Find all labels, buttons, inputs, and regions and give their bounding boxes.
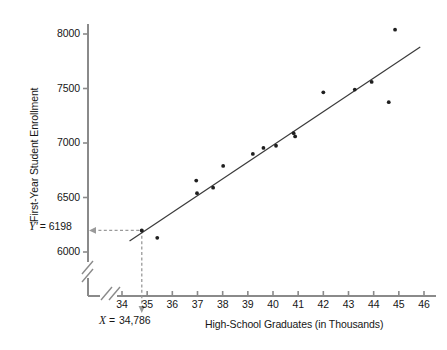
x-tick-label: 38 xyxy=(209,298,237,310)
x-tick-label: 37 xyxy=(184,298,212,310)
data-point xyxy=(194,179,198,183)
data-point xyxy=(251,152,255,156)
x-tick-label: 39 xyxy=(234,298,262,310)
regression-line-layer xyxy=(130,47,421,241)
predicted-y-arrowhead xyxy=(89,227,96,234)
data-point xyxy=(155,236,159,240)
y-tick-label: 8000 xyxy=(42,27,80,39)
data-point xyxy=(353,88,357,92)
x-tick-label: 34 xyxy=(108,298,136,310)
axes-layer xyxy=(82,24,436,300)
data-point xyxy=(370,80,374,84)
data-point xyxy=(211,186,215,190)
data-point xyxy=(195,191,199,195)
data-point xyxy=(292,131,296,135)
x-tick-label: 42 xyxy=(309,298,337,310)
data-point xyxy=(393,28,397,32)
y-axis-break-slash-1 xyxy=(82,261,93,274)
x-tick-label: 44 xyxy=(360,298,388,310)
data-point xyxy=(387,100,391,104)
regression-line xyxy=(130,47,421,241)
y-tick-label: 7000 xyxy=(42,136,80,148)
marked-data-point xyxy=(140,228,144,232)
scatter-plot-figure: First-Year Student Enrollment High-Schoo… xyxy=(0,0,447,350)
data-point xyxy=(274,144,278,148)
x-tick-label: 41 xyxy=(284,298,312,310)
y-tick-label: 6500 xyxy=(42,191,80,203)
data-point xyxy=(262,146,266,150)
x-tick-label: 43 xyxy=(335,298,363,310)
x-tick-label: 46 xyxy=(410,298,438,310)
data-point xyxy=(321,90,325,94)
data-point xyxy=(293,135,297,139)
y-tick-label: 7500 xyxy=(42,82,80,94)
x-tick-label: 45 xyxy=(385,298,413,310)
data-point xyxy=(221,164,225,168)
x-tick-label: 35 xyxy=(133,298,161,310)
x-tick-label: 40 xyxy=(259,298,287,310)
y-tick-label: 6000 xyxy=(42,245,80,257)
x-tick-label: 36 xyxy=(158,298,186,310)
